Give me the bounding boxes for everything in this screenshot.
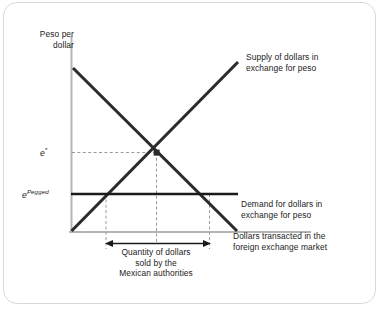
supply-curve-label: Supply of dollars in exchange for peso (246, 52, 318, 73)
quantity-annotation-caption: Quantity of dollars sold by the Mexican … (93, 247, 219, 279)
pegged-rate-superscript: Pegged (27, 188, 49, 195)
pegged-rate-label: ePegged (22, 187, 49, 200)
x-axis-label: Dollars transacted in the foreign exchan… (233, 231, 327, 252)
equilibrium-rate-label: e* (40, 145, 47, 158)
equilibrium-point-marker (154, 150, 160, 156)
equilibrium-rate-superscript: * (45, 146, 48, 153)
quantity-span-arrow (105, 240, 211, 247)
demand-curve-label: Demand for dollars in exchange for peso (241, 199, 322, 220)
y-axis-label: Peso per dollar (6, 29, 74, 50)
